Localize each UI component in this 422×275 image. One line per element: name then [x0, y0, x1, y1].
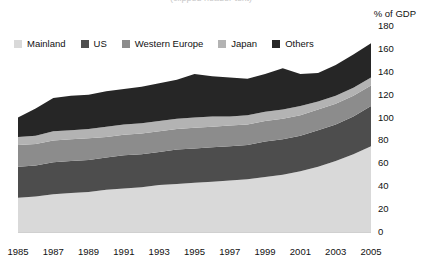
y-tick-label: 180	[378, 21, 394, 31]
x-tick-label: 1989	[78, 246, 99, 257]
x-tick-label: 2005	[360, 246, 381, 257]
x-tick-label: 1999	[255, 246, 276, 257]
y-tick-label: 60	[378, 158, 389, 168]
y-tick-label: 0	[378, 227, 383, 237]
x-tick-label: 1995	[184, 246, 205, 257]
stacked-area-plot	[0, 0, 422, 275]
x-tick-label: 1993	[149, 246, 170, 257]
y-tick-label: 80	[378, 135, 389, 145]
x-tick-label: 1991	[113, 246, 134, 257]
x-tick-label: 2003	[325, 246, 346, 257]
x-tick-label: 1987	[43, 246, 64, 257]
y-tick-label: 160	[378, 44, 394, 54]
y-tick-label: 100	[378, 113, 394, 123]
plot-area	[0, 0, 422, 275]
y-tick-label: 140	[378, 67, 394, 77]
y-tick-label: 20	[378, 204, 389, 214]
x-tick-label: 1997	[219, 246, 240, 257]
x-tick-label: 1985	[7, 246, 28, 257]
y-tick-label: 40	[378, 181, 389, 191]
x-tick-label: 2001	[290, 246, 311, 257]
chart-figure: (clipped header text) % of GDP Mainland …	[0, 0, 422, 275]
y-tick-label: 120	[378, 90, 394, 100]
